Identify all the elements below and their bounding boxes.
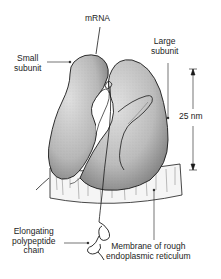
mrna-label-text: mRNA xyxy=(85,13,110,23)
membrane-label: Membrane of rough endoplasmic reticulum xyxy=(106,242,191,261)
large-subunit-label-line2: subunit xyxy=(151,47,178,57)
large-subunit-label: Large subunit xyxy=(151,37,178,56)
polypeptide-label-line3: chain xyxy=(12,246,55,256)
membrane-label-line2: endoplasmic reticulum xyxy=(106,252,191,262)
ribosome-diagram: mRNA Small subunit Large subunit 25 nm E… xyxy=(0,0,221,279)
scale-label: 25 nm xyxy=(179,112,203,122)
small-subunit-label: Small subunit xyxy=(14,54,41,73)
small-subunit-label-line2: subunit xyxy=(14,64,41,74)
polypeptide-label: Elongating polypeptide chain xyxy=(12,227,55,256)
scale-label-text: 25 nm xyxy=(179,111,203,121)
mrna-label: mRNA xyxy=(85,14,110,24)
